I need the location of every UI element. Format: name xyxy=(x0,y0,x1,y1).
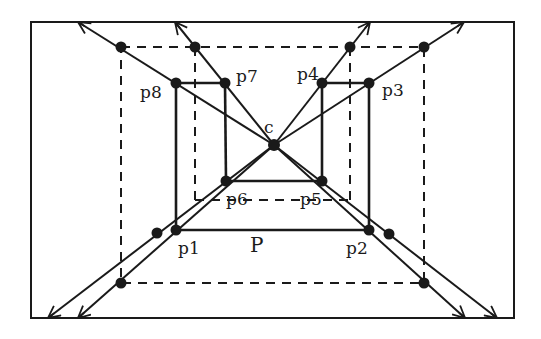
p1-dot xyxy=(171,225,182,236)
p3-label: p3 xyxy=(382,80,404,100)
p5-label: p5 xyxy=(300,189,322,209)
projected-dashed-rectangle xyxy=(121,47,424,283)
p6-label: p6 xyxy=(226,189,248,209)
perspective-diagram: p1p2p3p4p5p6p7p8 c P xyxy=(0,0,541,339)
vertex-dots xyxy=(116,42,430,289)
projected-dot-2 xyxy=(345,42,356,53)
polygon-label: P xyxy=(250,233,263,257)
p8-label: p8 xyxy=(140,82,162,102)
projected-dot-7 xyxy=(419,278,430,289)
p1-label: p1 xyxy=(178,238,200,258)
p7-dot xyxy=(220,78,231,89)
p7-label: p7 xyxy=(236,66,258,86)
center-label: c xyxy=(264,117,274,137)
projected-dot-0 xyxy=(116,42,127,53)
projected-dot-5 xyxy=(116,278,127,289)
frame xyxy=(31,22,514,318)
projected-dot-6 xyxy=(384,229,395,240)
p5-dot xyxy=(317,176,328,187)
projected-dot-1 xyxy=(190,42,201,53)
polygon-edges xyxy=(176,83,369,230)
p2-dot xyxy=(364,225,375,236)
center-dot xyxy=(268,139,280,151)
dashed-outer-rect xyxy=(121,47,424,283)
p6-dot xyxy=(221,176,232,187)
projected-dot-3 xyxy=(419,42,430,53)
p3-dot xyxy=(364,78,375,89)
p8-dot xyxy=(171,78,182,89)
projection-rays xyxy=(48,22,497,318)
p4-label: p4 xyxy=(297,64,319,84)
p2-label: p2 xyxy=(346,238,368,258)
projected-dot-4 xyxy=(152,228,163,239)
edge-p7-p6 xyxy=(225,83,226,181)
